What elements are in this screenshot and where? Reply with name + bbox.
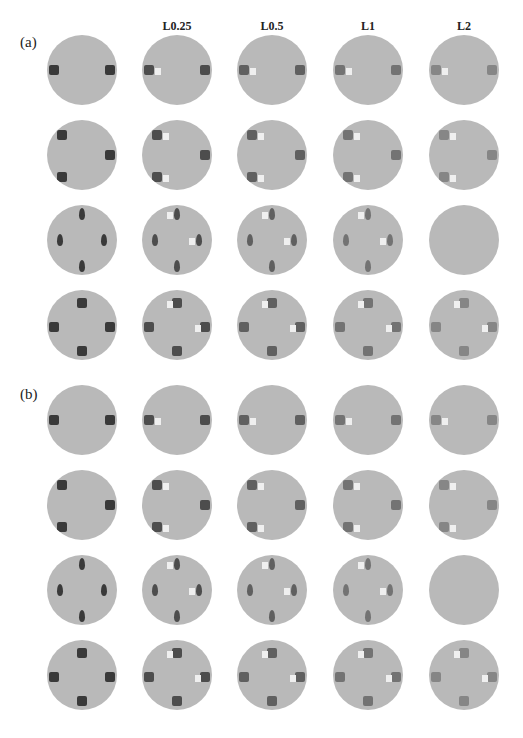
reconstruction-disk-b-r2-c3 [237, 470, 307, 540]
inclusion [267, 648, 277, 658]
inclusion [77, 298, 87, 308]
inclusion [439, 480, 449, 490]
artifact [250, 418, 256, 425]
artifact [354, 525, 360, 532]
inclusion [200, 322, 210, 332]
reconstruction-disk-a-r2-c5 [429, 120, 499, 190]
inclusion [196, 234, 202, 246]
artifact [195, 325, 201, 332]
inclusion [79, 208, 85, 220]
inclusion [200, 500, 210, 510]
inclusion [295, 672, 305, 682]
artifact [450, 525, 456, 532]
reconstruction-disk-b-r3-c4 [333, 555, 403, 625]
reconstruction-disk-b-r3-c1 [47, 555, 117, 625]
inclusion [365, 558, 371, 570]
reconstruction-disk-a-r3-c5 [429, 205, 499, 275]
inclusion [79, 558, 85, 570]
inclusion [247, 172, 257, 182]
inclusion [269, 558, 275, 570]
panel-label-a: (a) [20, 34, 37, 51]
inclusion [269, 610, 275, 622]
inclusion [335, 322, 345, 332]
artifact [358, 562, 364, 569]
inclusion [174, 610, 180, 622]
inclusion [247, 234, 253, 246]
inclusion [295, 65, 305, 75]
artifact [262, 651, 268, 658]
inclusion [365, 208, 371, 220]
artifact [450, 133, 456, 140]
artifact [167, 562, 173, 569]
reconstruction-disk-b-r3-c5 [429, 555, 499, 625]
artifact [454, 651, 460, 658]
reconstruction-disk-a-r1-c5 [429, 35, 499, 105]
artifact [442, 68, 448, 75]
inclusion [77, 346, 87, 356]
artifact [386, 325, 392, 332]
inclusion [431, 322, 441, 332]
artifact [258, 525, 264, 532]
inclusion [57, 172, 67, 182]
artifact [386, 675, 392, 682]
reconstruction-disk-a-r2-c2 [142, 120, 212, 190]
artifact [155, 68, 161, 75]
inclusion [343, 522, 353, 532]
inclusion [101, 584, 107, 596]
inclusion [459, 346, 469, 356]
inclusion [57, 480, 67, 490]
artifact [167, 301, 173, 308]
inclusion [335, 415, 345, 425]
inclusion [291, 234, 297, 246]
inclusion [487, 672, 497, 682]
inclusion [196, 584, 202, 596]
inclusion [200, 415, 210, 425]
inclusion [363, 648, 373, 658]
reconstruction-disk-b-r3-c3 [237, 555, 307, 625]
artifact [354, 483, 360, 490]
inclusion [144, 415, 154, 425]
reconstruction-disk-b-r3-c2 [142, 555, 212, 625]
inclusion [267, 696, 277, 706]
inclusion [239, 322, 249, 332]
artifact [346, 68, 352, 75]
reconstruction-disk-a-r2-c1 [47, 120, 117, 190]
inclusion [152, 234, 158, 246]
inclusion [387, 234, 393, 246]
reconstruction-disk-b-r4-c1 [47, 640, 117, 710]
inclusion [152, 584, 158, 596]
inclusion [391, 672, 401, 682]
inclusion [152, 130, 162, 140]
artifact [262, 301, 268, 308]
reconstruction-disk-a-r3-c1 [47, 205, 117, 275]
inclusion [391, 322, 401, 332]
inclusion [343, 584, 349, 596]
artifact [189, 588, 195, 595]
reconstruction-disk-b-r2-c2 [142, 470, 212, 540]
inclusion [269, 260, 275, 272]
inclusion [105, 500, 115, 510]
inclusion [295, 415, 305, 425]
artifact [482, 675, 488, 682]
inclusion [105, 672, 115, 682]
reconstruction-disk-b-r1-c3 [237, 385, 307, 455]
inclusion [295, 150, 305, 160]
inclusion [144, 65, 154, 75]
artifact [450, 483, 456, 490]
inclusion [387, 584, 393, 596]
artifact [250, 68, 256, 75]
inclusion [487, 322, 497, 332]
artifact [358, 651, 364, 658]
inclusion [391, 415, 401, 425]
inclusion [49, 322, 59, 332]
inclusion [79, 260, 85, 272]
artifact [284, 588, 290, 595]
artifact [346, 418, 352, 425]
inclusion [247, 584, 253, 596]
inclusion [439, 522, 449, 532]
inclusion [247, 522, 257, 532]
reconstruction-disk-a-r4-c4 [333, 290, 403, 360]
reconstruction-disk-a-r3-c2 [142, 205, 212, 275]
inclusion [172, 648, 182, 658]
inclusion [57, 522, 67, 532]
